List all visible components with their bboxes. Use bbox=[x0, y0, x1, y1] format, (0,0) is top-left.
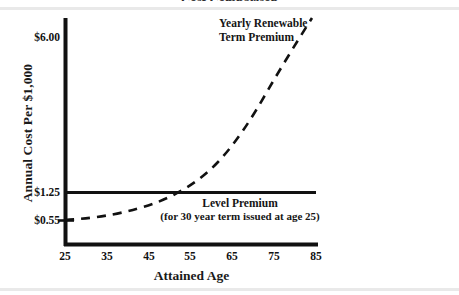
y-tick-label-600: $6.00 bbox=[34, 31, 60, 43]
x-tick-label-35: 35 bbox=[87, 250, 127, 262]
x-tick-label-65: 65 bbox=[212, 250, 252, 262]
yearly-renewable-term-premium-label: Yearly Renewable Term Premium bbox=[219, 16, 307, 45]
x-tick-label-45: 45 bbox=[129, 250, 169, 262]
level-premium-label: Level Premium (for 30 year term issued a… bbox=[120, 196, 360, 224]
y-tick-label-055: $0.55 bbox=[34, 214, 60, 226]
chart-figure: Cost Comparison Annual Cost Per $1,000 A… bbox=[0, 0, 459, 295]
y-tick-label-125: $1.25 bbox=[34, 186, 60, 198]
x-tick-label-85: 85 bbox=[296, 250, 336, 262]
x-tick-label-75: 75 bbox=[254, 250, 294, 262]
x-tick-label-55: 55 bbox=[170, 250, 210, 262]
level-label-line1: Level Premium bbox=[120, 196, 360, 210]
yrt-label-line1: Yearly Renewable bbox=[219, 16, 307, 30]
yearly-renewable-term-premium-curve bbox=[65, 18, 312, 220]
yrt-label-line2: Term Premium bbox=[219, 30, 307, 44]
x-axis-title: Attained Age bbox=[65, 268, 318, 284]
x-tick-label-25: 25 bbox=[45, 250, 85, 262]
level-label-line2: (for 30 year term issued at age 25) bbox=[120, 210, 360, 224]
